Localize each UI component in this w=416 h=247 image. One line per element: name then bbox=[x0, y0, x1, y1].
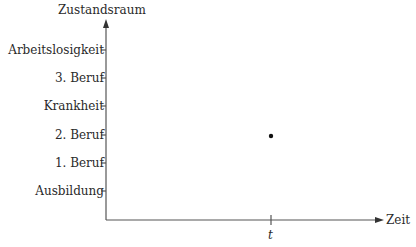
state-label-1-beruf: 1. Beruf bbox=[55, 156, 104, 170]
state-label-3-beruf: 3. Beruf bbox=[55, 71, 104, 85]
state-space-diagram: Zustandsraum Arbeitslosigkeit 3. Beruf K… bbox=[0, 0, 416, 247]
x-tick-label-t: t bbox=[268, 228, 273, 242]
x-axis-arrow-icon bbox=[375, 217, 384, 223]
y-axis-title: Zustandsraum bbox=[58, 3, 146, 17]
state-label-ausbildung: Ausbildung bbox=[35, 184, 104, 198]
x-axis-title: Zeit bbox=[386, 213, 410, 227]
state-point bbox=[269, 134, 273, 138]
state-label-2-beruf: 2. Beruf bbox=[55, 128, 104, 142]
diagram-canvas bbox=[0, 0, 416, 247]
state-label-krankheit: Krankheit bbox=[44, 99, 104, 113]
state-label-arbeitslosigkeit: Arbeitslosigkeit bbox=[8, 43, 104, 57]
y-axis-arrow-icon bbox=[103, 19, 109, 28]
